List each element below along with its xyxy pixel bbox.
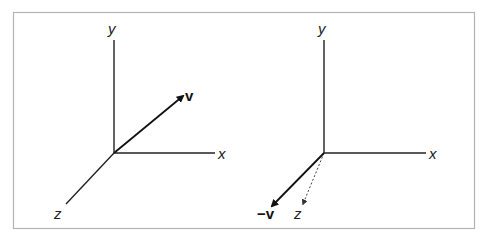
left-z-label: z (53, 205, 62, 222)
right-vector-neg-v (272, 153, 324, 206)
figure-frame (14, 13, 475, 229)
right-x-label: x (428, 145, 437, 162)
right-z-axis-dotted (303, 153, 324, 204)
right-y-label: y (317, 20, 327, 37)
left-vector-label: v (185, 87, 194, 104)
right-z-label: z (293, 205, 302, 222)
left-y-label: y (107, 20, 117, 37)
left-vector-v (114, 96, 183, 153)
right-vector-label: −v (257, 205, 275, 222)
vector-negation-diagram: y x z v y x z −v (0, 0, 487, 242)
right-panel: y x z −v (257, 20, 437, 222)
left-x-label: x (217, 145, 226, 162)
left-z-axis (66, 153, 114, 204)
left-panel: y x z v (53, 20, 226, 222)
